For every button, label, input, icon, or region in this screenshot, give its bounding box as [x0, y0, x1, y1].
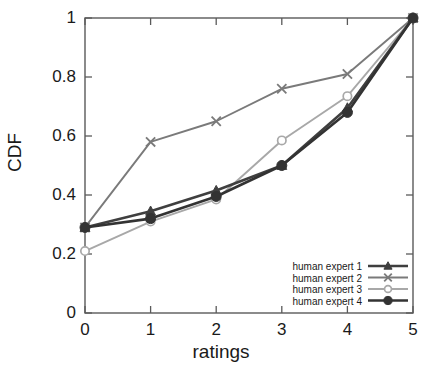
- x-axis-label: ratings: [0, 341, 442, 363]
- x-tick-label: 2: [211, 320, 220, 340]
- x-tick-label: 4: [343, 320, 352, 340]
- x-tick-label: 0: [80, 320, 89, 340]
- legend-marker-4: [368, 296, 408, 304]
- x-tick-label: 3: [277, 320, 286, 340]
- legend-label-4: human expert 4: [240, 295, 362, 306]
- legend-marker-3: [368, 286, 408, 293]
- series-3: [81, 14, 417, 255]
- y-tick-label: 0.6: [30, 126, 76, 146]
- legend-label-3: human expert 3: [240, 284, 362, 295]
- legend-marker-1: [368, 262, 408, 269]
- y-tick-label: 0.8: [30, 67, 76, 87]
- y-tick-label: 0.2: [30, 244, 76, 264]
- cdf-chart-figure: CDF ratings 10.80.60.40.20012345 human e…: [0, 0, 442, 379]
- data-series-group: [80, 13, 418, 255]
- x-tick-label: 5: [408, 320, 417, 340]
- series-4: [80, 13, 418, 232]
- legend-label-2: human expert 2: [240, 272, 362, 283]
- y-tick-label: 1: [30, 8, 76, 28]
- y-axis-label: CDF: [4, 133, 26, 172]
- y-tick-label: 0: [30, 303, 76, 323]
- y-tick-label: 0.4: [30, 185, 76, 205]
- legend-markers: [368, 262, 408, 305]
- legend-marker-2: [368, 274, 408, 282]
- x-tick-label: 1: [146, 320, 155, 340]
- legend-label-1: human expert 1: [240, 261, 362, 272]
- series-2: [80, 13, 417, 232]
- series-1: [80, 13, 418, 232]
